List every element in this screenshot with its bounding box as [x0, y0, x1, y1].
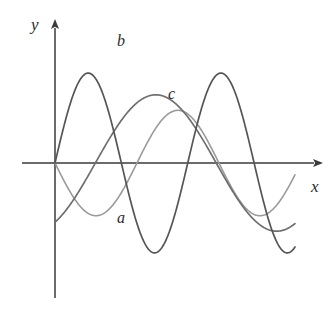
y-axis-label: y	[31, 16, 39, 33]
axes-group	[22, 28, 314, 298]
x-axis-label: x	[311, 178, 319, 195]
curve-label-a: a	[117, 210, 125, 226]
curve-label-c: c	[168, 86, 175, 102]
plot-canvas	[0, 0, 336, 313]
curve-label-b: b	[117, 33, 125, 49]
sine-curves-figure: y x a b c	[0, 0, 336, 313]
